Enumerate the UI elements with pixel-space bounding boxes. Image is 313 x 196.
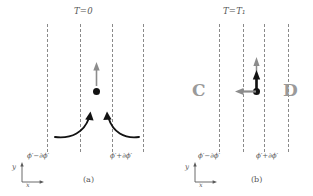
arrow-left-gray-b xyxy=(235,88,256,95)
velocity-arrow-a xyxy=(93,62,99,86)
panel-b-label-left: ϕ′−∂ϕ′ xyxy=(198,152,220,160)
axis-label-y-b: y xyxy=(185,163,189,171)
axes-indicator-b: y x xyxy=(183,160,219,190)
panel-a-label-right: ϕ′+∂ϕ′ xyxy=(110,152,132,160)
panel-b-label-right: ϕ′+∂ϕ′ xyxy=(256,152,278,160)
axis-label-y-a: y xyxy=(12,163,16,171)
panel-a-label-left: ϕ′−∂ϕ′ xyxy=(27,152,49,160)
panel-a-caption: (a) xyxy=(83,175,94,184)
panel-a: T=0 ϕ′−∂ϕ′ ϕ′+∂ϕ′ xyxy=(0,0,158,196)
arrow-up-black-b xyxy=(253,70,260,90)
panel-b-caption: (b) xyxy=(251,175,262,184)
panel-b-vectors xyxy=(155,0,313,196)
axes-indicator-a: y x xyxy=(10,160,46,190)
flow-arrow-a-left xyxy=(55,112,94,138)
axis-label-x-a: x xyxy=(26,181,30,189)
figure-two-panel-diagram: T=0 ϕ′−∂ϕ′ ϕ′+∂ϕ′ xyxy=(0,0,313,196)
panel-b: T=T₁ C D ϕ′−∂ϕ′ ϕ′+∂ϕ′ xyxy=(155,0,313,196)
axis-label-x-b: x xyxy=(199,181,203,189)
flow-arrow-a-right xyxy=(103,112,139,138)
